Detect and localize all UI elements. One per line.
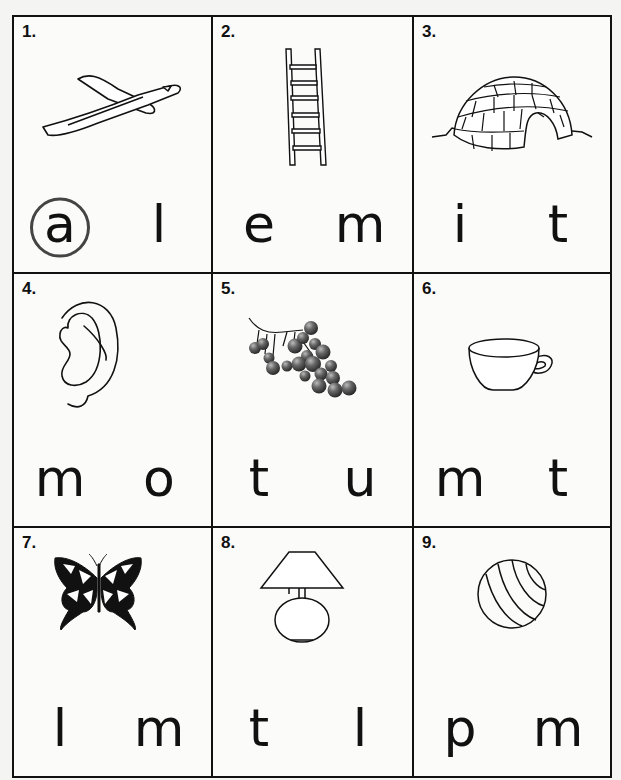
letter-choice[interactable]: m bbox=[129, 702, 189, 754]
letter-choice[interactable]: m bbox=[430, 452, 490, 504]
letter-choice[interactable]: t bbox=[229, 452, 289, 504]
cell-2: 2. e m bbox=[213, 17, 414, 274]
letter-choice[interactable]: l bbox=[30, 702, 90, 754]
letter-choice[interactable]: i bbox=[430, 198, 490, 250]
ladder-icon bbox=[213, 39, 412, 169]
picture-letter-grid: 1. a l 2. bbox=[14, 17, 610, 776]
letter-choice[interactable]: t bbox=[528, 452, 588, 504]
airplane-icon bbox=[14, 39, 211, 169]
letter-choice[interactable]: t bbox=[528, 198, 588, 250]
letter-choice[interactable]: l bbox=[129, 198, 189, 250]
cell-4: 4. m o bbox=[14, 274, 213, 528]
letter-choice[interactable]: l bbox=[330, 702, 390, 754]
letter-choice[interactable]: e bbox=[229, 198, 289, 250]
lamp-icon bbox=[213, 550, 412, 680]
letter-choice[interactable]: u bbox=[330, 452, 390, 504]
ball-icon bbox=[414, 550, 610, 680]
ear-icon bbox=[14, 296, 211, 426]
igloo-icon bbox=[414, 39, 610, 169]
letter-choice[interactable]: m bbox=[528, 702, 588, 754]
cup-icon bbox=[414, 296, 610, 426]
cell-6: 6. m t bbox=[414, 274, 610, 528]
cell-8: 8. t l bbox=[213, 528, 414, 776]
berries-icon bbox=[213, 296, 412, 426]
worksheet: 1. a l 2. bbox=[12, 15, 612, 778]
letter-choice[interactable]: m bbox=[330, 198, 390, 250]
cell-1: 1. a l bbox=[14, 17, 213, 274]
letter-choice[interactable]: o bbox=[129, 452, 189, 504]
letter-choice[interactable]: p bbox=[430, 702, 490, 754]
cell-9: 9. p m bbox=[414, 528, 610, 776]
letter-choice[interactable]: m bbox=[30, 452, 90, 504]
cell-7: 7. l m bbox=[14, 528, 213, 776]
cell-3: 3. bbox=[414, 17, 610, 274]
cell-5: 5. bbox=[213, 274, 414, 528]
letter-choice[interactable]: t bbox=[229, 702, 289, 754]
letter-choice-circled[interactable]: a bbox=[30, 198, 90, 250]
butterfly-icon bbox=[14, 550, 211, 680]
